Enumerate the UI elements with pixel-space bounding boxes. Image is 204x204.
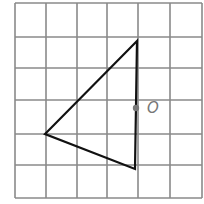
grid-diagram: O <box>0 0 204 204</box>
point-o-label: O <box>147 99 159 117</box>
grid <box>15 3 202 198</box>
triangle <box>45 41 137 169</box>
diagram-canvas: O <box>0 0 204 204</box>
point-o-marker <box>133 105 139 111</box>
